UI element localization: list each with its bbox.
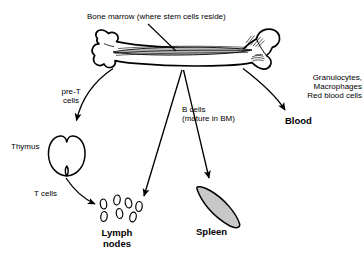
t-cells-label: T cells [34, 190, 57, 199]
b-cells-label: B cells (mature in BM) [182, 106, 235, 124]
lymph-node [129, 211, 137, 222]
lymph-node [115, 208, 123, 219]
spleen-graphic [197, 187, 240, 228]
lymph-node [135, 201, 142, 212]
spleen-label: Spleen [196, 227, 227, 238]
lymph-node [100, 211, 108, 222]
thymus-label: Thymus [11, 143, 39, 152]
lymph-node [124, 197, 133, 208]
b-cells-lymph-arrow [144, 70, 182, 196]
pre-t-cells-label: pre-T cells [50, 88, 92, 106]
blood-lineages-label: Granulocytes, Macrophages Red blood cell… [196, 74, 362, 101]
thymus-shape [48, 136, 85, 176]
bone-graphic [92, 29, 279, 69]
bone-marrow-label: Bone marrow (where stem cells reside) [87, 13, 226, 22]
thymus-graphic [48, 136, 85, 176]
lymph-nodes-graphic [100, 195, 143, 223]
spleen-shape [197, 187, 240, 228]
diagram-svg [0, 0, 364, 268]
blood-label: Blood [285, 116, 312, 127]
diagram-canvas: Bone marrow (where stem cells reside) pr… [0, 0, 364, 268]
lymph-node [100, 199, 108, 210]
lymph-node [113, 195, 121, 206]
lymph-nodes-label: Lymph nodes [84, 228, 150, 249]
t-cells-arrow [66, 178, 95, 204]
